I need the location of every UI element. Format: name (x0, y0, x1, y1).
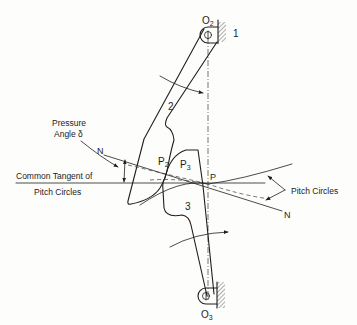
pressure-angle-dimension (124, 160, 125, 182)
link-2 (128, 29, 217, 204)
label-pitch-circles: Pitch Circles (291, 186, 338, 196)
label-n-end: N (284, 210, 291, 220)
ground-bottom (217, 282, 225, 308)
rotation-arrow-link-3 (170, 232, 228, 247)
label-pressure-angle-1: Pressure (52, 118, 86, 128)
label-link-2: 2 (168, 101, 174, 112)
rotation-arrow-link-2 (160, 76, 203, 93)
label-pitch-point: P (210, 172, 216, 182)
pitch-circles-leader-1 (268, 176, 285, 190)
label-link-3: 3 (185, 201, 191, 212)
label-n-start: N (97, 146, 104, 156)
pivot-o2 (200, 27, 218, 43)
label-common-tangent-2: Pitch Circles (34, 187, 81, 197)
link-3 (163, 150, 214, 296)
label-common-tangent-1: Common Tangent of (16, 171, 93, 181)
label-o3: O3 (201, 309, 213, 321)
pitch-circles-leader-2 (266, 190, 285, 200)
diagram-canvas: O2 1 O3 2 3 P2 P3 P N N Pressure Angle δ… (0, 0, 357, 325)
label-p3: P3 (180, 159, 191, 171)
label-o2: O2 (202, 15, 214, 27)
ground-top (218, 20, 226, 43)
label-p2: P2 (158, 156, 169, 168)
label-frame-1: 1 (233, 28, 239, 39)
label-pressure-angle-2: Angle δ (54, 129, 83, 139)
gear-contact-diagram: O2 1 O3 2 3 P2 P3 P N N Pressure Angle δ… (0, 0, 357, 325)
